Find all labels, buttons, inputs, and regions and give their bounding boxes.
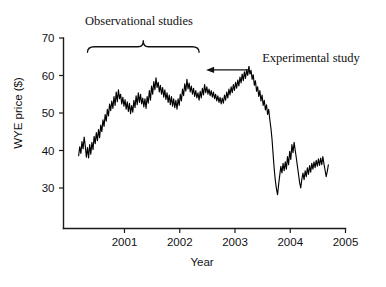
chart-figure: 3040506070 20012002200320042005 WYE pric… bbox=[0, 0, 386, 287]
y-tick-label-30: 30 bbox=[42, 182, 55, 194]
x-tick-label-2004: 2004 bbox=[277, 236, 303, 248]
observational-studies-brace bbox=[87, 41, 199, 53]
y-axis-title: WYE price ($) bbox=[12, 77, 24, 149]
x-axis-tick-labels: 20012002200320042005 bbox=[112, 236, 359, 248]
y-tick-label-40: 40 bbox=[42, 145, 55, 157]
x-tick-label-2003: 2003 bbox=[222, 236, 248, 248]
x-axis-title: Year bbox=[190, 256, 213, 268]
data-series-wye-price bbox=[79, 67, 329, 195]
y-tick-label-60: 60 bbox=[42, 70, 55, 82]
x-tick-label-2005: 2005 bbox=[333, 236, 359, 248]
y-axis-tick-labels: 3040506070 bbox=[42, 32, 55, 194]
y-tick-label-50: 50 bbox=[42, 107, 55, 119]
experimental-study-arrowhead bbox=[206, 67, 214, 73]
y-tick-label-70: 70 bbox=[42, 32, 55, 44]
observational-studies-label: Observational studies bbox=[85, 14, 193, 28]
wye-price-line-chart: 3040506070 20012002200320042005 WYE pric… bbox=[0, 0, 386, 287]
x-tick-label-2002: 2002 bbox=[167, 236, 193, 248]
experimental-study-label: Experimental study bbox=[262, 51, 360, 65]
x-tick-label-2001: 2001 bbox=[112, 236, 138, 248]
experimental-study-arrow bbox=[213, 66, 249, 70]
